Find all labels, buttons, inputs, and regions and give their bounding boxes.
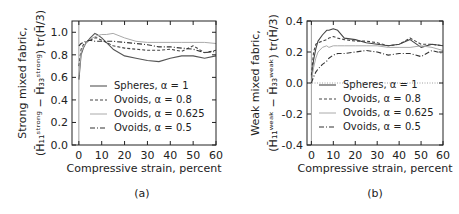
x-tick-label: 0 xyxy=(75,149,82,162)
x-tick-label: 20 xyxy=(348,149,362,162)
y-tick-label: 0.0 xyxy=(286,77,304,90)
y-tick-label: 0.2 xyxy=(51,116,69,129)
legend-label: Spheres, α = 1 xyxy=(114,80,189,91)
legend-label: Ovoids, α = 0.5 xyxy=(343,121,421,132)
x-tick-label: 10 xyxy=(95,149,109,162)
legend-label: Ovoids, α = 0.625 xyxy=(114,108,205,119)
x-tick-label: 40 xyxy=(163,149,177,162)
legend: Spheres, α = 1Ovoids, α = 0.8Ovoids, α =… xyxy=(319,79,434,132)
x-axis-label: Compressive strain, percent xyxy=(67,162,223,175)
legend-label: Ovoids, α = 0.625 xyxy=(343,107,434,118)
x-tick-label: 60 xyxy=(436,149,450,162)
panel-label: (b) xyxy=(367,187,383,200)
y-tick-label: -0.2 xyxy=(282,108,303,121)
y-tick-label: 0.4 xyxy=(286,15,304,28)
chart-panel-a: 01020304050600.00.20.40.60.81.0Compressi… xyxy=(16,10,223,200)
y-axis-label-line2: (H̄₁₁ˢᵗʳᵒⁿᵍ − H̄₃₃ˢᵗʳᵒⁿᵍ) tr(H̄/3) xyxy=(34,10,47,156)
figure: 01020304050600.00.20.40.60.81.0Compressi… xyxy=(0,0,459,214)
x-tick-label: 30 xyxy=(140,149,154,162)
x-tick-label: 50 xyxy=(186,149,200,162)
legend-label: Ovoids, α = 0.5 xyxy=(114,122,192,133)
y-tick-label: 1.0 xyxy=(51,26,69,39)
series-line-2 xyxy=(311,46,443,82)
x-tick-label: 20 xyxy=(118,149,132,162)
y-tick-label: 0.0 xyxy=(51,139,69,152)
y-axis-label-line2: (H̄₁₁ʷᵉᵃᵏ − H̄₃₃ʷᵉᵃᵏ) tr(H̄/3) xyxy=(267,14,280,151)
panel-label: (a) xyxy=(134,187,149,200)
x-tick-label: 40 xyxy=(392,149,406,162)
x-tick-label: 10 xyxy=(326,149,340,162)
legend-label: Spheres, α = 1 xyxy=(343,79,418,90)
legend: Spheres, α = 1Ovoids, α = 0.8Ovoids, α =… xyxy=(90,80,205,133)
y-tick-label: 0.6 xyxy=(51,71,69,84)
y-tick-label: 0.2 xyxy=(286,46,304,59)
x-tick-label: 0 xyxy=(308,149,315,162)
series-line-0 xyxy=(79,33,216,79)
legend-label: Ovoids, α = 0.8 xyxy=(343,93,421,104)
x-tick-label: 30 xyxy=(370,149,384,162)
series-group xyxy=(79,33,216,79)
x-tick-label: 60 xyxy=(209,149,223,162)
chart-panel-b: 0102030405060-0.4-0.20.00.20.4Compressiv… xyxy=(249,14,453,200)
series-group xyxy=(311,29,443,83)
legend-label: Ovoids, α = 0.8 xyxy=(114,94,192,105)
x-axis-label: Compressive strain, percent xyxy=(298,162,454,175)
y-tick-label: 0.4 xyxy=(51,94,69,107)
y-tick-label: 0.8 xyxy=(51,49,69,62)
y-axis-label-line1: Weak mixed fabric, xyxy=(249,30,262,136)
x-tick-label: 50 xyxy=(414,149,428,162)
y-axis-label-line1: Strong mixed fabric, xyxy=(16,27,29,139)
y-tick-label: -0.4 xyxy=(282,139,303,152)
series-line-0 xyxy=(311,29,443,80)
